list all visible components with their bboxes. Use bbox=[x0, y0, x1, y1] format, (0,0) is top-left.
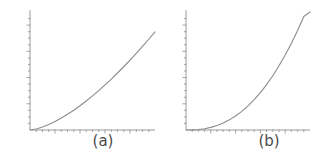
axes-a bbox=[27, 10, 156, 134]
curve-line-a bbox=[30, 32, 155, 130]
panel-caption-b: (b) bbox=[162, 132, 325, 150]
figure-two-panel-plots: (a) (b) bbox=[0, 0, 325, 164]
plot-b bbox=[162, 0, 324, 140]
panel-a: (a) bbox=[0, 0, 162, 164]
panel-caption-a: (a) bbox=[0, 132, 184, 150]
curve-line-b bbox=[186, 12, 310, 130]
plot-a bbox=[0, 0, 162, 140]
panel-b: (b) bbox=[162, 0, 324, 164]
axes-b bbox=[183, 10, 311, 134]
